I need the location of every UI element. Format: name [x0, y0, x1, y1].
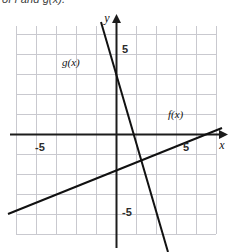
x-axis-label: x — [218, 138, 225, 152]
x-tick-positive-5: 5 — [183, 141, 189, 153]
y-tick-negative-5: -5 — [122, 206, 132, 218]
prompt-text: of f and g(x). — [2, 0, 65, 5]
graph-figure-page: of f and g(x). — [0, 0, 237, 252]
x-tick-negative-5: -5 — [35, 141, 45, 153]
coordinate-plane-svg: x y 5 -5 5 -5 g(x) f(x) — [0, 8, 237, 252]
coordinate-plane-figure: x y 5 -5 5 -5 g(x) f(x) — [0, 8, 237, 252]
figure-background — [0, 8, 237, 252]
curve-label-f: f(x) — [168, 108, 184, 121]
y-axis-label: y — [103, 11, 110, 25]
curve-label-g: g(x) — [62, 56, 80, 69]
y-tick-positive-5: 5 — [122, 43, 128, 55]
